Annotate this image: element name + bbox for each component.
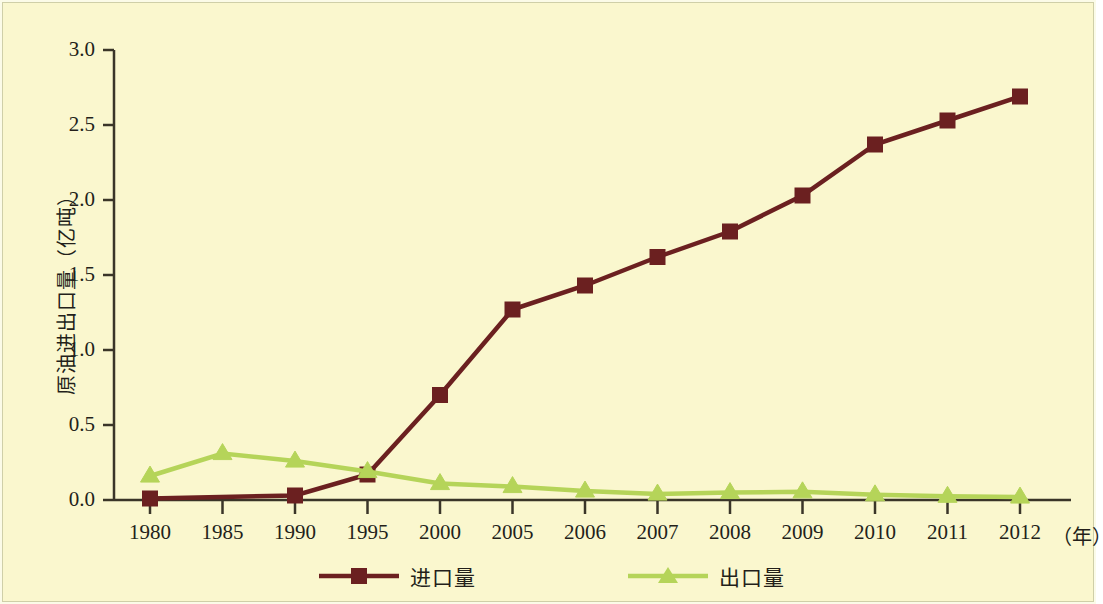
- x-axis-tick-label: 1985: [202, 520, 244, 545]
- y-axis-tick-label: 2.5: [9, 112, 95, 137]
- chart-legend: 进口量出口量: [3, 561, 1099, 591]
- x-axis-tick-label: 1995: [347, 520, 389, 545]
- legend-item-exports[interactable]: 出口量: [626, 561, 785, 591]
- x-axis-tick-label: 2009: [782, 520, 824, 545]
- y-axis-tick-label: 0.5: [9, 412, 95, 437]
- y-axis-tick-label: 2.0: [9, 187, 95, 212]
- legend-label: 出口量: [719, 561, 785, 591]
- y-axis-tick-label: 1.0: [9, 337, 95, 362]
- x-axis-unit-label: （年）: [1052, 521, 1103, 550]
- legend-label: 进口量: [410, 561, 476, 591]
- x-axis-tick-label: 2007: [637, 520, 679, 545]
- line-chart-plot: [3, 3, 1099, 604]
- legend-triangle-marker-icon: [626, 565, 710, 587]
- x-axis-tick-label: 2008: [709, 520, 751, 545]
- y-axis-title: 原油进出口量（亿吨）: [51, 140, 80, 440]
- x-axis-tick-label: 1990: [274, 520, 316, 545]
- x-axis-tick-label: 2012: [999, 520, 1041, 545]
- x-axis-tick-label: 1980: [129, 520, 171, 545]
- legend-square-marker-icon: [317, 565, 401, 587]
- y-axis-tick-label: 1.5: [9, 262, 95, 287]
- x-axis-tick-label: 2010: [854, 520, 896, 545]
- x-axis-tick-label: 2000: [419, 520, 461, 545]
- x-axis-tick-label: 2006: [564, 520, 606, 545]
- y-axis-tick-label: 3.0: [9, 37, 95, 62]
- x-axis-tick-label: 2005: [492, 520, 534, 545]
- x-axis-tick-label: 2011: [927, 520, 968, 545]
- legend-item-imports[interactable]: 进口量: [317, 561, 476, 591]
- y-axis-tick-label: 0.0: [9, 487, 95, 512]
